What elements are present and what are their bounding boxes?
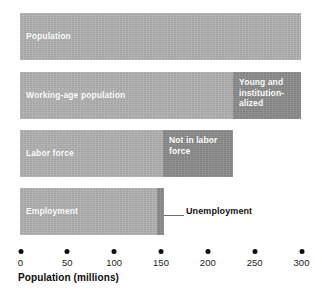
tick-label-0: 0 <box>18 257 23 268</box>
unemployment-leader-line <box>164 215 184 216</box>
bar-row-labor-force: Labor force Not in labor force <box>20 130 233 177</box>
population-bar-chart: Population Working-age population Young … <box>0 0 322 292</box>
segment-not-in-labor-force[interactable]: Not in labor force <box>163 130 233 177</box>
tick-label-50: 50 <box>62 257 73 268</box>
segment-labor-force[interactable]: Labor force <box>20 130 163 177</box>
unemployment-annotation: Unemployment <box>186 206 252 216</box>
tick-label-250: 250 <box>247 257 263 268</box>
bar-row-working-age: Working-age population Young and institu… <box>20 72 301 119</box>
tick-dot-300 <box>299 249 304 254</box>
x-axis-title: Population (millions) <box>18 272 119 283</box>
tick-dot-250 <box>252 249 257 254</box>
segment-population[interactable]: Population <box>20 13 301 60</box>
tick-dot-200 <box>205 249 210 254</box>
tick-dot-150 <box>159 249 164 254</box>
bar-row-employment: Employment <box>20 188 164 235</box>
tick-dot-50 <box>65 249 70 254</box>
segment-working-age-population[interactable]: Working-age population <box>20 72 233 119</box>
tick-label-200: 200 <box>200 257 216 268</box>
tick-label-100: 100 <box>106 257 122 268</box>
bar-row-population: Population <box>20 13 301 60</box>
segment-label-not-in-labor-force: Not in labor force <box>163 130 220 156</box>
segment-employment[interactable]: Employment <box>20 188 157 235</box>
segment-unemployment[interactable] <box>157 188 164 235</box>
segment-label-young-and-institutionalized: Young and institution- alized <box>233 72 287 109</box>
segment-label-population: Population <box>20 31 74 42</box>
tick-label-150: 150 <box>153 257 169 268</box>
tick-dot-100 <box>112 249 117 254</box>
tick-dot-0 <box>18 249 23 254</box>
tick-label-300: 300 <box>294 257 310 268</box>
segment-label-employment: Employment <box>20 206 81 217</box>
segment-label-labor-force: Labor force <box>20 148 77 159</box>
segment-young-and-institutionalized[interactable]: Young and institution- alized <box>233 72 301 119</box>
segment-label-working-age-population: Working-age population <box>20 90 128 101</box>
